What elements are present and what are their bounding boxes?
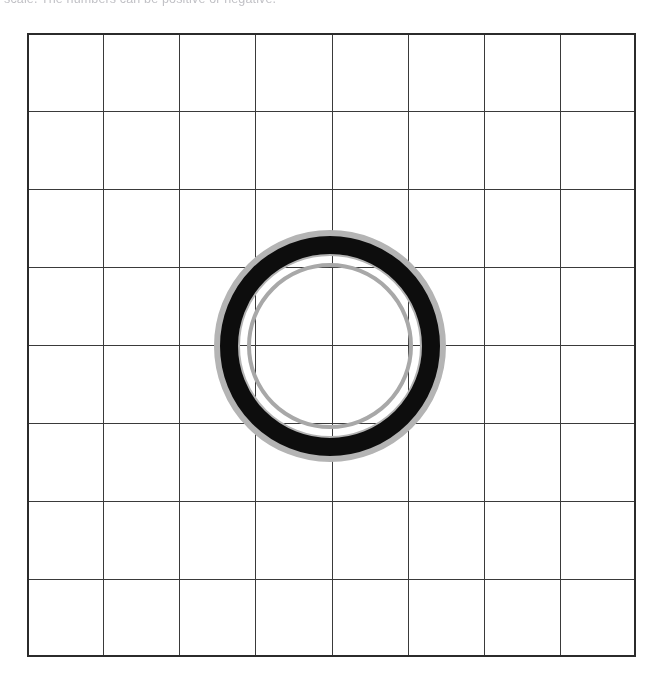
grid-ring-figure [0, 0, 663, 686]
grid-svg [27, 33, 636, 657]
grid-container [27, 33, 636, 657]
